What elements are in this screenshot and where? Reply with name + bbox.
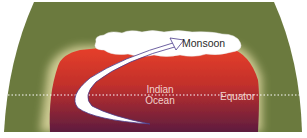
- monsoon-label: Monsoon: [182, 38, 225, 49]
- monsoon-diagram: Monsoon Indian Ocean Equator: [0, 0, 307, 138]
- diagram-graphic: [0, 0, 307, 138]
- indian-ocean-label: Indian Ocean: [140, 84, 180, 106]
- bottom-margin: [0, 132, 307, 138]
- equator-label: Equator: [220, 91, 255, 102]
- ocean-label-line2: Ocean: [140, 95, 180, 106]
- ocean-label-line1: Indian: [140, 84, 180, 95]
